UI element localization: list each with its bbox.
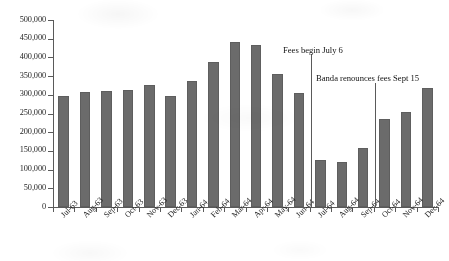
bar — [294, 93, 305, 207]
x-axis-tick — [53, 208, 54, 212]
y-axis-tick-label-wrap: 400,000 — [0, 57, 46, 58]
y-axis-tick-label: 50,000 — [2, 184, 46, 192]
y-axis-tick — [48, 188, 53, 189]
y-axis-tick — [48, 95, 53, 96]
y-axis-tick-label: 450,000 — [2, 34, 46, 42]
bar — [401, 112, 412, 207]
y-axis-tick — [48, 170, 53, 171]
bar — [101, 91, 112, 207]
y-axis-tick — [48, 151, 53, 152]
bar — [422, 88, 433, 207]
annotation-label: Fees begin July 6 — [283, 45, 343, 55]
bar-chart: 500,000450,000400,000350,000300,000250,0… — [0, 0, 449, 261]
y-axis-tick — [48, 20, 53, 21]
bar — [187, 81, 198, 207]
bar — [358, 148, 369, 207]
y-axis-tick-label: 300,000 — [2, 90, 46, 98]
y-axis-tick-label: 350,000 — [2, 72, 46, 80]
annotation-line — [311, 54, 312, 207]
bar — [144, 85, 155, 207]
y-axis-tick-label: 150,000 — [2, 146, 46, 154]
y-axis-tick-label-wrap: 450,000 — [0, 39, 46, 40]
y-axis-tick-label-wrap: 100,000 — [0, 170, 46, 171]
bar — [80, 92, 91, 207]
y-axis-tick — [48, 76, 53, 77]
y-axis-tick-label-wrap: 150,000 — [0, 151, 46, 152]
y-axis-line — [53, 20, 54, 208]
y-axis-tick — [48, 114, 53, 115]
y-axis-tick-label: 200,000 — [2, 128, 46, 136]
y-axis-tick-label-wrap: 300,000 — [0, 95, 46, 96]
bar — [379, 119, 390, 207]
y-axis-tick-label: 250,000 — [2, 109, 46, 117]
y-axis-tick-label-wrap: 50,000 — [0, 188, 46, 189]
y-axis-tick-label-wrap: 250,000 — [0, 114, 46, 115]
bar — [315, 160, 326, 207]
y-axis-tick-label: 500,000 — [2, 16, 46, 24]
y-axis-tick-label-wrap: 350,000 — [0, 76, 46, 77]
y-axis-tick — [48, 57, 53, 58]
y-axis-tick-label-wrap: 0 — [0, 207, 46, 208]
y-axis-tick-label: 100,000 — [2, 165, 46, 173]
bar — [58, 96, 69, 207]
bar — [251, 45, 262, 207]
y-axis-tick — [48, 132, 53, 133]
bar — [337, 162, 348, 207]
annotation-line — [375, 83, 376, 207]
bar — [230, 42, 241, 207]
bar — [165, 96, 176, 207]
y-axis-tick-label-wrap: 200,000 — [0, 132, 46, 133]
y-axis-tick-label-wrap: 500,000 — [0, 20, 46, 21]
y-axis-tick — [48, 39, 53, 40]
bar — [123, 90, 134, 207]
bar — [272, 74, 283, 207]
y-axis-tick-label: 400,000 — [2, 53, 46, 61]
bar — [208, 62, 219, 207]
y-axis-tick-label: 0 — [2, 203, 46, 211]
annotation-label: Banda renounces fees Sept 15 — [316, 73, 419, 83]
